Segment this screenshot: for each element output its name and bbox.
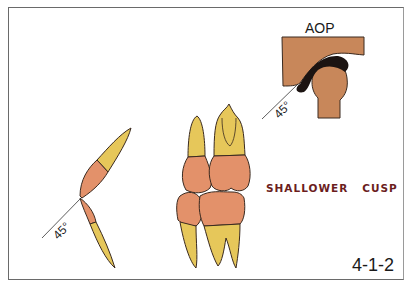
incisor-pair: 45° <box>42 128 131 268</box>
figure-number: 4-1-2 <box>352 255 394 276</box>
angle-label-incisor: 45° <box>50 219 73 242</box>
lower-incisor-root <box>90 222 115 268</box>
joint-label: AOP <box>305 20 335 36</box>
diagram-canvas: 45° 45° <box>0 0 411 289</box>
tmj-cross-section: 45° <box>262 37 364 121</box>
caption-label: SHALLOWER CUSP <box>266 182 398 194</box>
molar-pair <box>177 104 250 268</box>
lower-incisor-crown <box>80 198 96 224</box>
angle-label-tmj: 45° <box>271 98 294 121</box>
